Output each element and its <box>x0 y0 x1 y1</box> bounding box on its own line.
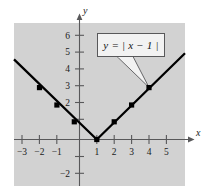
y-tick-label-3: 3 <box>65 81 70 91</box>
data-point-4-3 <box>146 85 151 90</box>
x-axis-label: x <box>195 127 201 138</box>
y-tick-label-6: 6 <box>65 31 70 41</box>
x-tick-label--3: −3 <box>17 147 27 157</box>
data-point-1-0 <box>94 137 99 142</box>
data-point-3-2 <box>129 102 134 107</box>
data-point-0-1 <box>72 119 77 124</box>
x-tick-label-2: 2 <box>112 147 117 157</box>
y-tick-label-5: 5 <box>65 47 70 57</box>
y-axis-label: y <box>82 5 88 16</box>
x-tick-label-4: 4 <box>147 147 152 157</box>
y-tick-label--2: −2 <box>60 169 70 179</box>
plot-canvas: −3 −2 −1 1 2 3 4 5 6 5 4 3 2 −2 x y <box>0 0 205 194</box>
y-tick-label-2: 2 <box>65 98 70 108</box>
x-tick-label-1: 1 <box>94 147 99 157</box>
data-point-2-1 <box>112 119 117 124</box>
equation-callout-box: y = | x − 1 | <box>97 33 165 57</box>
absolute-value-graph-figure: −3 −2 −1 1 2 3 4 5 6 5 4 3 2 −2 x y <box>0 0 205 194</box>
equation-callout-label: y = | x − 1 | <box>103 39 158 51</box>
x-tick-label-3: 3 <box>129 147 134 157</box>
data-point--1-2 <box>54 102 59 107</box>
x-axis-arrowhead <box>188 137 195 143</box>
y-tick-label-4: 4 <box>65 64 70 74</box>
x-tick-label--1: −1 <box>52 147 62 157</box>
x-tick-label--2: −2 <box>34 147 44 157</box>
data-point--2-3 <box>37 85 42 90</box>
y-axis-arrowhead <box>77 14 83 21</box>
x-tick-label-5: 5 <box>164 147 169 157</box>
